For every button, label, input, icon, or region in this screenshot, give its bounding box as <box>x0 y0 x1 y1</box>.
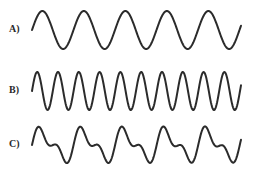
wave-b <box>32 72 241 110</box>
wave-c-composite <box>32 126 241 163</box>
wave-a <box>32 11 241 49</box>
waveform-diagram <box>0 0 255 176</box>
